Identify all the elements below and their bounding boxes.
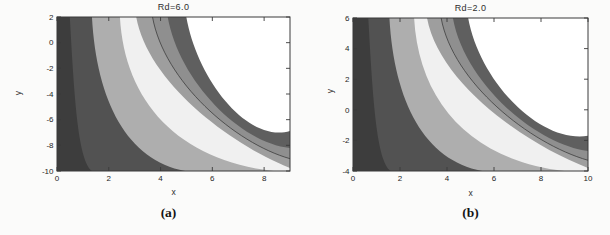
x-tick-label: 10 (584, 174, 593, 183)
y-tick-label: -6 (46, 115, 54, 124)
figure-canvas: 0246820-2-4-6-8-10 Rd=6.0 y x (a) 024681… (0, 0, 610, 235)
panel-b: 02468106420-2-4 Rd=2.0 y x (b) (305, 0, 610, 235)
y-tick-label: -2 (342, 136, 350, 145)
x-tick-label: 2 (107, 174, 112, 183)
plot-title-b: Rd=2.0 (353, 3, 588, 13)
plot-title-a: Rd=6.0 (57, 2, 290, 12)
x-tick-label: 8 (262, 174, 267, 183)
y-axis-label-b: y (325, 89, 335, 93)
panel-caption-a: (a) (57, 205, 280, 221)
y-tick-label: -4 (46, 90, 54, 99)
y-tick-label: 2 (345, 75, 350, 84)
x-tick-label: 0 (351, 174, 356, 183)
y-tick-label: 0 (49, 38, 54, 47)
contour-plot-a: 0246820-2-4-6-8-10 (0, 0, 305, 235)
y-tick-label: 4 (345, 44, 350, 53)
x-axis-label-b: x (353, 188, 588, 198)
y-tick-label: 2 (49, 13, 54, 22)
panel-caption-b: (b) (353, 205, 588, 221)
y-tick-label: -8 (46, 141, 54, 150)
x-tick-label: 4 (158, 174, 163, 183)
y-tick-label: 0 (345, 106, 350, 115)
y-tick-label: -4 (342, 167, 350, 176)
contour-plot-b: 02468106420-2-4 (305, 0, 610, 235)
x-tick-label: 6 (492, 174, 497, 183)
x-axis-label-a: x (57, 187, 290, 197)
y-tick-label: -2 (46, 64, 54, 73)
x-tick-label: 8 (539, 174, 544, 183)
y-axis-label-a: y (13, 91, 23, 95)
panel-a: 0246820-2-4-6-8-10 Rd=6.0 y x (a) (0, 0, 305, 235)
x-tick-label: 2 (398, 174, 403, 183)
x-tick-label: 0 (55, 174, 60, 183)
y-tick-label: 6 (345, 14, 350, 23)
y-tick-label: -10 (42, 167, 54, 176)
x-tick-label: 6 (210, 174, 215, 183)
x-tick-label: 4 (445, 174, 450, 183)
